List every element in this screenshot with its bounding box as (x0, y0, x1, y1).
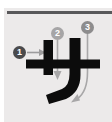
stroke-order-marker-2[interactable]: 2 (51, 27, 64, 40)
glyph-stroke-2-vertical (44, 40, 54, 75)
stroke-1-guide-arrow (27, 49, 46, 56)
glyph-and-guides-layer (0, 0, 112, 122)
character-glyph-sa (26, 38, 100, 104)
stroke-order-marker-3[interactable]: 3 (81, 21, 94, 34)
katakana-stroke-order-diagram: 1 2 3 (0, 0, 112, 122)
glyph-stroke-1-horizontal (26, 60, 100, 69)
stroke-order-marker-1[interactable]: 1 (13, 46, 26, 59)
